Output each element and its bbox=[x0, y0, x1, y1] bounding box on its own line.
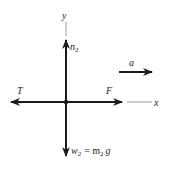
y-axis-label: y bbox=[61, 10, 67, 21]
applied-force-label: F bbox=[105, 85, 113, 96]
free-body-diagram: y x n2 T F w2= m2g a bbox=[0, 0, 170, 170]
x-axis-label: x bbox=[153, 97, 159, 108]
acceleration-label: a bbox=[129, 57, 134, 68]
normal-force-label: n2 bbox=[70, 41, 79, 54]
center-point bbox=[64, 100, 68, 104]
tension-label: T bbox=[17, 85, 24, 96]
weight-label: w2= m2g bbox=[71, 145, 111, 158]
